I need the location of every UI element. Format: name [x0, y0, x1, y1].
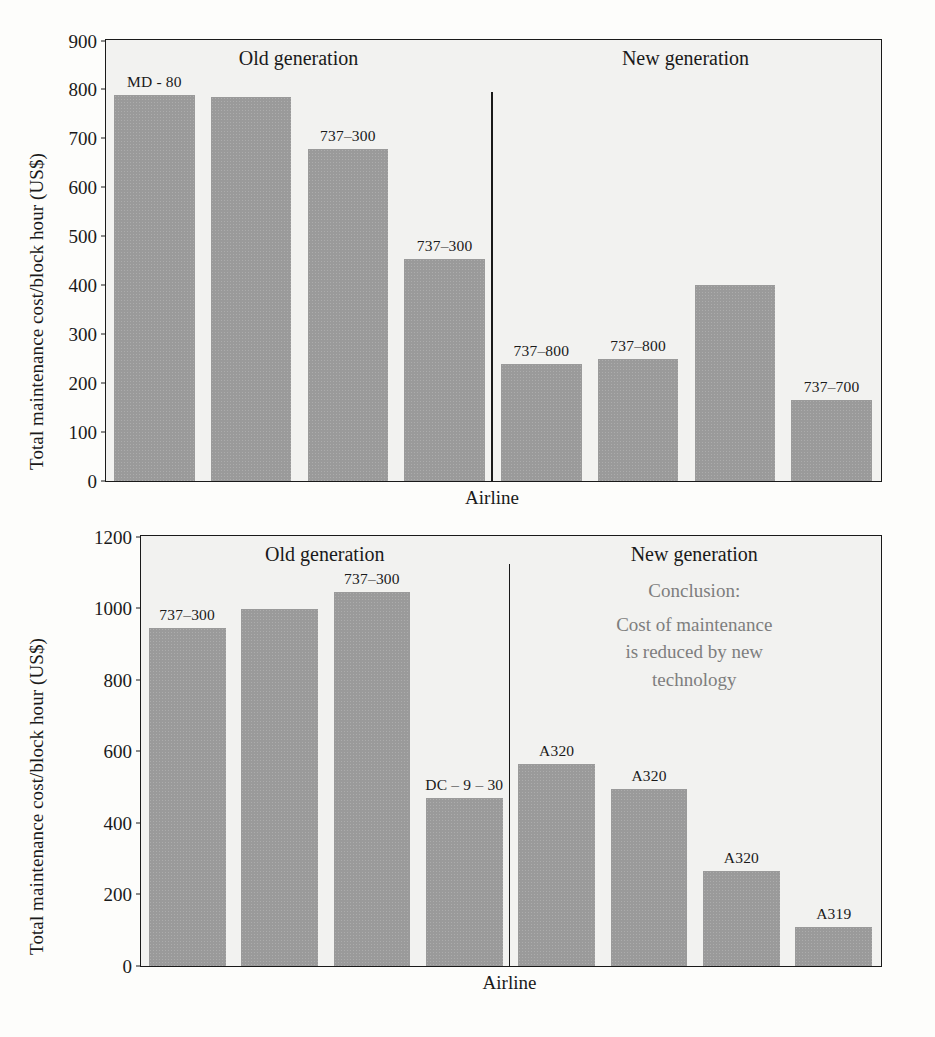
bar	[611, 789, 688, 966]
bar	[501, 364, 581, 481]
bar	[334, 592, 411, 966]
bar	[308, 149, 388, 481]
y-axis-title: Total maintenance cost/block hour (US$)	[26, 153, 48, 470]
conclusion-line: Cost of maintenance	[616, 611, 772, 639]
bar-label: 737–300	[417, 237, 473, 255]
y-tick-label: 200	[47, 373, 97, 392]
bar-label: 737–700	[804, 378, 860, 396]
conclusion-line: technology	[616, 666, 772, 694]
conclusion-annotation: Conclusion:Cost of maintenanceis reduced…	[616, 577, 772, 693]
conclusion-line: Conclusion:	[616, 577, 772, 605]
bar-label: 737–800	[610, 337, 666, 355]
y-tick-label: 900	[47, 31, 97, 50]
y-tick-label: 1000	[82, 599, 132, 618]
bar-label: A319	[816, 905, 851, 923]
bar	[791, 400, 871, 481]
bar	[795, 927, 872, 966]
bar	[211, 97, 291, 481]
bar-label: A320	[631, 767, 666, 785]
y-tick-label: 700	[47, 129, 97, 148]
y-tick-label: 400	[47, 275, 97, 294]
bar-label: A320	[724, 849, 759, 867]
section-title-old-generation: Old generation	[239, 47, 358, 70]
section-title-new-generation: New generation	[622, 47, 749, 70]
y-axis-title: Total maintenance cost/block hour (US$)	[26, 638, 48, 955]
y-tick-label: 100	[47, 422, 97, 441]
y-tick-label: 200	[82, 885, 132, 904]
y-tick-label: 500	[47, 227, 97, 246]
bar-label: DC – 9 – 30	[425, 776, 503, 794]
x-axis-title: Airline	[465, 487, 519, 509]
section-title-new-generation: New generation	[631, 543, 758, 566]
bar	[149, 628, 226, 966]
bar-label: 737–300	[320, 127, 376, 145]
y-tick-label: 1200	[82, 527, 132, 546]
group-divider	[491, 92, 493, 481]
bar-label: 737–800	[514, 342, 570, 360]
bar	[426, 798, 503, 966]
bar	[703, 871, 780, 966]
y-tick-label: 800	[82, 670, 132, 689]
y-tick-label: 0	[82, 956, 132, 975]
y-tick-label: 400	[82, 813, 132, 832]
plot-inner: MD - 80737–300737–300737–800737–800737–7…	[106, 40, 881, 481]
bar	[404, 259, 484, 481]
y-tick-label: 600	[82, 742, 132, 761]
group-divider	[509, 564, 511, 966]
bar	[598, 359, 678, 481]
y-tick-label: 800	[47, 80, 97, 99]
bar	[695, 285, 775, 481]
y-tick-label: 600	[47, 178, 97, 197]
conclusion-line: is reduced by new	[616, 638, 772, 666]
bar-label: 737–300	[159, 606, 215, 624]
bar-label: MD - 80	[127, 73, 182, 91]
section-title-old-generation: Old generation	[265, 543, 384, 566]
y-tick-label: 300	[47, 324, 97, 343]
bar-label: A320	[539, 742, 574, 760]
plot-area: MD - 80737–300737–300737–800737–800737–7…	[105, 39, 882, 482]
x-axis-title: Airline	[483, 972, 537, 994]
bar	[518, 764, 595, 966]
bar	[114, 95, 194, 481]
y-tick-label: 0	[47, 471, 97, 490]
bar	[241, 609, 318, 967]
bar-label: 737–300	[344, 570, 400, 588]
